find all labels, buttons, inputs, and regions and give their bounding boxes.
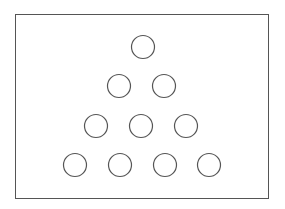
- circle-row3-2: [130, 115, 153, 138]
- circle-row4-4: [198, 154, 221, 177]
- triangle-circles-diagram: [0, 0, 285, 209]
- circle-row4-1: [64, 154, 87, 177]
- circle-row4-3: [154, 154, 177, 177]
- circle-row3-3: [175, 115, 198, 138]
- circle-row4-2: [109, 154, 132, 177]
- circle-row1-1: [132, 36, 155, 59]
- circle-row3-1: [85, 115, 108, 138]
- circle-row2-1: [108, 75, 131, 98]
- circle-row2-2: [153, 75, 176, 98]
- circle-group: [64, 36, 221, 177]
- frame-rectangle: [16, 15, 269, 199]
